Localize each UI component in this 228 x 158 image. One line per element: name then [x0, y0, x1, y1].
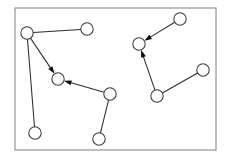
arrow-head-icon — [48, 66, 54, 74]
graph-edge-directed — [71, 83, 104, 92]
graph-edge-directed — [30, 38, 50, 67]
graph-node — [104, 88, 116, 100]
graph-node — [81, 23, 93, 35]
node-layer — [21, 13, 209, 145]
graph-node — [197, 64, 209, 76]
graph-node — [133, 38, 145, 50]
graph-edge — [33, 29, 81, 32]
graph-node — [52, 73, 64, 85]
graph-node — [174, 13, 186, 25]
arrow-head-icon — [141, 50, 146, 58]
plot-border — [15, 8, 216, 150]
arrow-head-icon — [144, 35, 152, 41]
arrow-head-icon — [64, 80, 72, 85]
graph-node — [93, 133, 105, 145]
graph-edge-directed — [143, 57, 154, 90]
graph-node — [21, 27, 33, 39]
graph-edge-directed — [151, 22, 175, 37]
graph-node — [29, 127, 41, 139]
graph-canvas — [0, 0, 228, 158]
graph-edge — [27, 39, 34, 127]
graph-edge — [100, 100, 108, 133]
graph-edge — [162, 73, 197, 93]
graph-diagram — [0, 0, 228, 158]
graph-node — [151, 90, 163, 102]
